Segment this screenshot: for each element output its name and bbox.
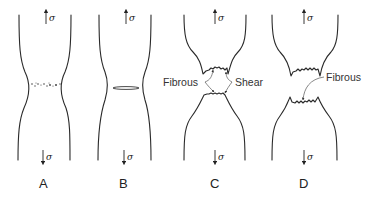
specimen-c: Fibrous Shear σ σ C	[163, 11, 264, 191]
leader-c-fibrous-upper	[205, 70, 213, 82]
stress-symbol-bottom-d: σ	[307, 152, 314, 162]
specimen-b-right-edge	[143, 15, 151, 160]
specimen-a: σ σ A	[18, 11, 71, 191]
central-crack	[113, 87, 139, 90]
fracture-diagram: σ σ A σ σ B Fibrous Shear σ σ C	[0, 0, 369, 200]
leader-c-shear-upper	[226, 72, 232, 82]
specimen-label-b: B	[119, 176, 128, 191]
stress-symbol-bottom-b: σ	[127, 152, 134, 162]
leader-c-shear-lower	[225, 82, 232, 93]
specimen-b: σ σ B	[98, 11, 151, 191]
specimen-d-lower-outline	[272, 97, 337, 160]
callout-d-fibrous: Fibrous	[326, 71, 361, 83]
microvoids	[31, 83, 61, 87]
stress-symbol-top-b: σ	[129, 13, 136, 23]
specimen-label-d: D	[299, 176, 308, 191]
stress-symbol-top-c: σ	[218, 13, 225, 23]
specimen-a-left-edge	[18, 15, 29, 160]
specimen-b-left-edge	[98, 15, 107, 160]
specimen-label-a: A	[39, 176, 48, 191]
stress-symbol-bottom-c: σ	[218, 152, 225, 162]
leader-c-fibrous-lower	[205, 82, 214, 92]
specimen-d: Fibrous σ σ D	[272, 11, 361, 191]
callout-c-fibrous: Fibrous	[163, 76, 198, 88]
callout-c-shear: Shear	[235, 76, 264, 88]
stress-symbol-top-d: σ	[307, 13, 314, 23]
leader-d-fibrous	[303, 77, 324, 100]
stress-symbol-top-a: σ	[49, 13, 56, 23]
specimen-a-right-edge	[61, 15, 71, 160]
specimen-d-upper-outline	[272, 15, 338, 76]
stress-symbol-bottom-a: σ	[46, 152, 53, 162]
specimen-label-c: C	[210, 176, 219, 191]
specimen-c-lower-outline	[184, 93, 245, 160]
